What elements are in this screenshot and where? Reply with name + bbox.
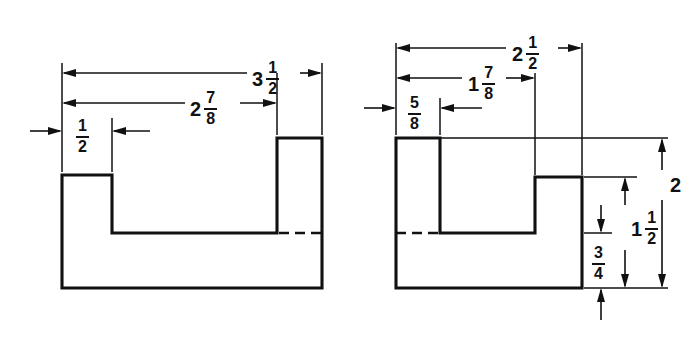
arrowhead-overall-width-right	[568, 44, 582, 52]
arrowhead-inner-width-right	[263, 99, 277, 107]
left-view-outline	[62, 138, 322, 288]
fraction-glyph: 7 8	[482, 65, 495, 102]
fraction-glyph: 1 2	[526, 35, 539, 72]
left-view-geometry	[62, 138, 322, 288]
drawing-canvas	[0, 0, 700, 347]
arrowhead-wall-width-right	[440, 104, 454, 112]
fraction-glyph: 5 8	[408, 95, 421, 132]
arrowhead-overall-height-top	[658, 138, 666, 152]
arrowhead-overall-width-right	[308, 69, 322, 77]
arrowhead-base-height-top	[597, 219, 605, 233]
arrowhead-overall-width-left	[62, 69, 76, 77]
arrowhead-inner-width-left	[62, 99, 76, 107]
arrowhead-tab-width-right	[112, 127, 126, 135]
arrowhead-overall-width-left	[396, 44, 410, 52]
right-view-extension-lines	[396, 43, 582, 175]
arrowhead-tab-height-top	[621, 177, 629, 191]
arrowhead-wall-width-left	[382, 104, 396, 112]
arrowhead-inner-width-left	[396, 74, 410, 82]
fraction-glyph: 3 4	[592, 245, 605, 282]
dim-label-left-overall-width: 3 1 2	[252, 60, 279, 97]
dim-label-left-tab-width: 1 2	[76, 118, 89, 155]
right-view-geometry	[396, 138, 582, 288]
right-view-outline	[396, 138, 582, 288]
fraction-glyph: 1 2	[76, 118, 89, 155]
fraction-glyph: 1 2	[266, 60, 279, 97]
fraction-glyph: 7 8	[204, 90, 217, 127]
dim-label-left-inner-width: 2 7 8	[190, 90, 217, 127]
arrowhead-base-height-bottom	[597, 288, 605, 302]
dim-label-right-overall-width: 2 1 2	[512, 35, 539, 72]
dim-label-right-inner-width: 1 7 8	[468, 65, 495, 102]
drawing-sheet: 3 1 2 2 7 8 1 2 2 1 2 1 7	[0, 0, 700, 347]
arrowhead-inner-width-right	[521, 74, 535, 82]
arrowhead-tab-height-bottom	[621, 274, 629, 288]
arrowhead-overall-height-bottom	[658, 274, 666, 288]
fraction-glyph: 1 2	[645, 210, 658, 247]
arrowhead-tab-width-left	[48, 127, 62, 135]
dim-label-right-tab-height: 1 1 2	[631, 210, 658, 247]
dim-label-right-base-height: 3 4	[592, 245, 605, 282]
dim-label-right-wall-width: 5 8	[408, 95, 421, 132]
dim-label-right-overall-height: 2	[670, 175, 681, 195]
